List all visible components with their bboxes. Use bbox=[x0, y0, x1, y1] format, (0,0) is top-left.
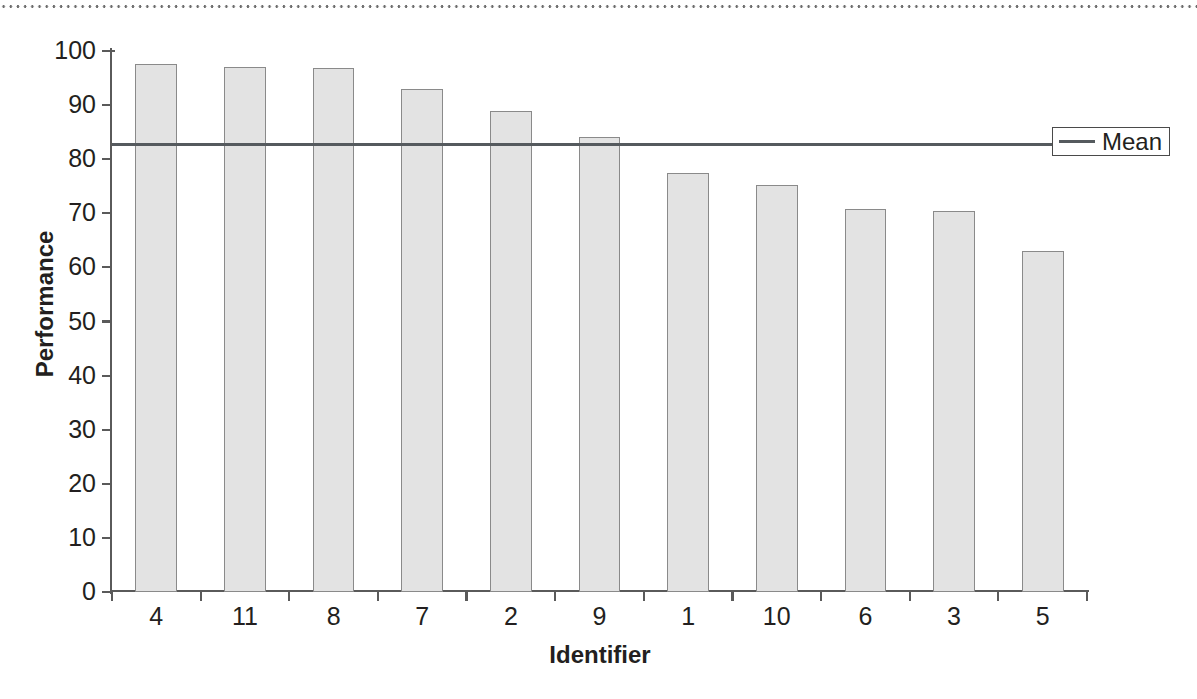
x-axis-title: Identifier bbox=[0, 641, 1197, 669]
x-axis-tick bbox=[200, 590, 202, 601]
x-axis-tick bbox=[288, 590, 290, 601]
y-axis-tick-label: 100 bbox=[34, 38, 96, 63]
y-axis-tick bbox=[102, 320, 112, 322]
x-axis-tick-label: 7 bbox=[377, 601, 467, 631]
x-axis-tick-label: 10 bbox=[732, 601, 822, 631]
bar[interactable] bbox=[313, 68, 355, 592]
bar[interactable] bbox=[224, 67, 266, 592]
x-axis-tick-label: 8 bbox=[289, 601, 379, 631]
bar-chart: 0102030405060708090100 4118729110635 Per… bbox=[0, 0, 1197, 699]
bar[interactable] bbox=[933, 211, 975, 592]
x-axis-tick bbox=[731, 590, 733, 601]
y-axis-tick-label: 20 bbox=[34, 471, 96, 496]
bar[interactable] bbox=[401, 89, 443, 592]
y-axis-tick-label: 90 bbox=[34, 92, 96, 117]
legend-item-label: Mean bbox=[1102, 130, 1162, 154]
y-axis-tick bbox=[102, 483, 112, 485]
y-axis-tick bbox=[102, 266, 112, 268]
y-axis-tick-label: 70 bbox=[34, 200, 96, 225]
y-axis-tick-label: 80 bbox=[34, 146, 96, 171]
y-axis-tick bbox=[102, 104, 112, 106]
bar[interactable] bbox=[1022, 251, 1064, 592]
x-axis-tick bbox=[1086, 590, 1088, 601]
y-axis-title: Performance bbox=[31, 231, 59, 378]
y-axis-tick bbox=[102, 212, 112, 214]
x-axis-tick-label: 6 bbox=[820, 601, 910, 631]
x-axis-tick bbox=[909, 590, 911, 601]
chart-page: 0102030405060708090100 4118729110635 Per… bbox=[0, 0, 1197, 699]
x-axis-title-text: Identifier bbox=[549, 641, 650, 669]
bar[interactable] bbox=[490, 111, 532, 592]
y-axis-tick bbox=[102, 50, 115, 52]
x-axis-tick-label: 4 bbox=[111, 601, 201, 631]
bar[interactable] bbox=[579, 137, 621, 592]
y-axis-tick bbox=[102, 158, 112, 160]
x-axis-tick-label: 3 bbox=[909, 601, 999, 631]
x-axis-tick-label: 2 bbox=[466, 601, 556, 631]
legend[interactable]: Mean bbox=[1052, 127, 1170, 156]
bar[interactable] bbox=[756, 185, 798, 592]
x-axis-tick-label: 1 bbox=[643, 601, 733, 631]
y-axis-tick-label: 0 bbox=[34, 579, 96, 604]
x-axis-tick-label: 9 bbox=[555, 601, 645, 631]
x-axis-tick-label: 11 bbox=[200, 601, 290, 631]
y-axis-tick bbox=[102, 375, 112, 377]
x-axis-tick bbox=[111, 590, 113, 601]
x-axis-tick bbox=[554, 590, 556, 601]
x-axis-tick bbox=[377, 590, 379, 601]
bar[interactable] bbox=[667, 173, 709, 592]
x-axis-tick bbox=[643, 590, 645, 601]
y-axis-tick bbox=[102, 429, 112, 431]
x-axis-tick-label: 5 bbox=[998, 601, 1088, 631]
y-axis-tick bbox=[102, 537, 112, 539]
y-axis-tick-label: 30 bbox=[34, 417, 96, 442]
mean-reference-line bbox=[112, 143, 1087, 146]
bar[interactable] bbox=[845, 209, 887, 592]
y-axis-tick-label: 10 bbox=[34, 525, 96, 550]
x-axis-tick bbox=[820, 590, 822, 601]
x-axis-tick bbox=[465, 590, 467, 601]
legend-line-icon bbox=[1059, 140, 1095, 143]
x-axis-tick bbox=[997, 590, 999, 601]
